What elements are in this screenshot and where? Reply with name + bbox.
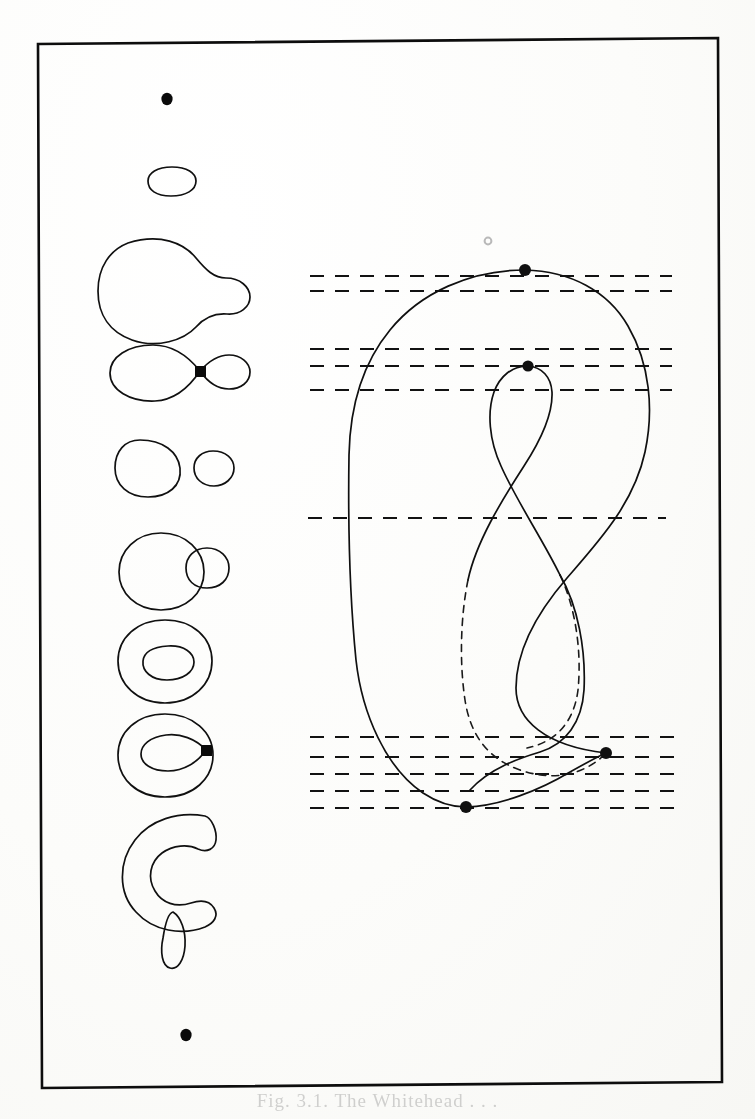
level-item-small-ellipse: [148, 167, 196, 196]
critical-points: [460, 238, 612, 813]
faint-grey-dot: [485, 238, 492, 245]
level-group-bottom: [310, 737, 678, 808]
level-item-pear-shape: [98, 239, 250, 344]
level-item-two-ovals: [115, 440, 234, 497]
critical-point-minimum: [460, 801, 472, 813]
critical-point-saddle-upper: [522, 360, 533, 371]
level-lines: [308, 276, 678, 808]
critical-node-lower: [201, 745, 212, 756]
level-item-thin-arc: [162, 912, 185, 968]
curve-outer-right-branch: [516, 270, 649, 753]
critical-point-maximum: [519, 264, 531, 276]
level-group-top: [310, 276, 672, 291]
figure-canvas: .ink{fill:none;stroke:#101010;stroke-wid…: [0, 0, 755, 1119]
level-item-point-top: [161, 93, 172, 105]
curve-outer-left-branch: [349, 270, 525, 807]
level-item-figure-eight-upper: [110, 345, 250, 401]
figure-border: [38, 38, 722, 1088]
level-item-point-bottom: [180, 1029, 191, 1041]
s-shaped-closed-curve: [349, 270, 650, 807]
curve-inner-loop-right: [468, 366, 552, 580]
critical-node-upper: [195, 366, 206, 377]
critical-point-saddle-lower: [600, 747, 612, 759]
level-set-sequence: [98, 93, 250, 1041]
curve-bottom-link: [466, 753, 606, 807]
level-item-figure-eight-lower: [118, 714, 213, 797]
level-item-circle-with-bud: [119, 533, 229, 610]
level-group-upper-middle: [310, 349, 672, 390]
level-item-annulus: [118, 620, 212, 703]
curve-inner-loop-left: [490, 366, 560, 575]
